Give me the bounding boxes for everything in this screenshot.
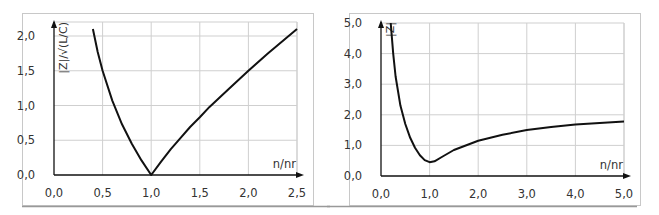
y-tick-label: 1,5 <box>17 64 35 78</box>
x-tick-label: 3,0 <box>518 187 536 201</box>
y-tick-label: 1,0 <box>17 99 35 113</box>
x-tick-label: 5,0 <box>615 187 633 201</box>
y-axis-label: |Z|/√(L/C) <box>57 22 70 74</box>
chart-left: 0,00,51,01,52,02,50,00,51,01,52,0n/nr|Z|… <box>0 0 330 215</box>
x-tick-label: 0,5 <box>93 186 111 200</box>
x-tick-label: 1,0 <box>420 187 438 201</box>
y-tick-label: 0,5 <box>17 133 35 147</box>
y-tick-label: 1,0 <box>344 138 362 152</box>
y-tick-label: 0,0 <box>344 169 362 183</box>
y-tick-label: 2,0 <box>344 108 362 122</box>
chart-left-svg: 0,00,51,01,52,02,50,00,51,01,52,0n/nr|Z|… <box>0 0 330 215</box>
chart-right-svg: 0,01,02,03,04,05,00,01,02,03,04,05,0n/nr… <box>327 0 659 215</box>
x-tick-label: 0,0 <box>45 186 63 200</box>
y-tick-label: 2,0 <box>17 29 35 43</box>
y-tick-label: 5,0 <box>344 16 362 30</box>
x-tick-label: 2,0 <box>469 187 487 201</box>
y-tick-label: 3,0 <box>344 77 362 91</box>
x-tick-label: 0,0 <box>372 187 390 201</box>
x-tick-label: 4,0 <box>566 187 584 201</box>
x-axis-label: n/nr <box>273 157 296 171</box>
y-tick-label: 4,0 <box>344 47 362 61</box>
chart-right: 0,01,02,03,04,05,00,01,02,03,04,05,0n/nr… <box>327 0 659 215</box>
x-tick-label: 2,5 <box>288 186 306 200</box>
x-tick-label: 2,0 <box>239 186 257 200</box>
x-tick-label: 1,0 <box>142 186 160 200</box>
x-tick-label: 1,5 <box>191 186 209 200</box>
y-tick-label: 0,0 <box>17 168 35 182</box>
x-axis-label: n/nr <box>600 158 623 172</box>
